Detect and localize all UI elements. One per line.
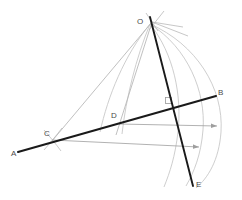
vertex-label-b: B	[218, 89, 223, 97]
vertex-label-e: E	[196, 181, 201, 189]
ray-o-right-2	[152, 22, 183, 27]
geometry-diagram: O A B C D E	[0, 0, 242, 200]
vertex-label-c: C	[44, 130, 50, 138]
line-ab	[18, 96, 216, 152]
arc-outer	[150, 24, 221, 188]
arc-third	[150, 24, 179, 187]
diagram-canvas	[0, 0, 242, 200]
vertex-label-d: D	[111, 112, 117, 120]
vertex-label-o: O	[137, 18, 143, 26]
primary-lines	[18, 17, 216, 186]
line-od	[116, 22, 152, 135]
vertex-label-a: A	[11, 150, 16, 158]
construction-arcs	[100, 24, 221, 188]
line-oe	[150, 17, 193, 186]
arrow-upper	[119, 124, 217, 126]
